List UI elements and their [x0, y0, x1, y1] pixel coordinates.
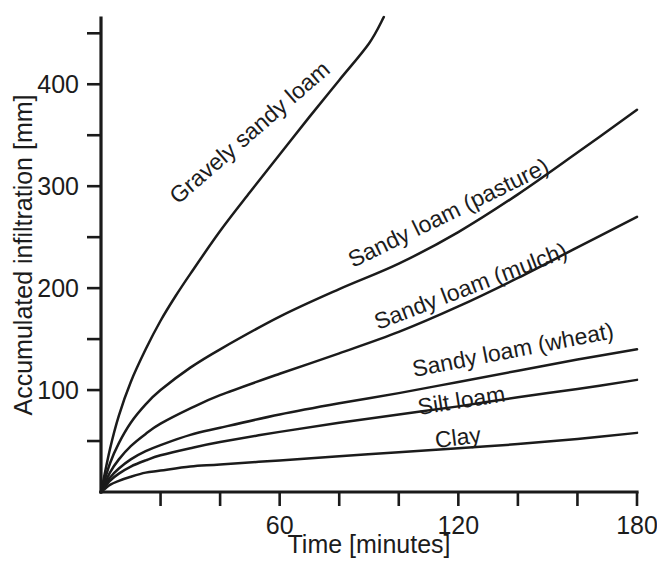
y-tick-label: 200 [37, 274, 79, 302]
x-axis-ticks [161, 492, 637, 506]
series-curve [101, 17, 384, 492]
y-tick-label: 300 [37, 172, 79, 200]
y-tick-label: 100 [37, 376, 79, 404]
y-axis-title: Accumulated infiltration [mm] [9, 95, 37, 416]
y-tick-label: 400 [37, 70, 79, 98]
y-axis-ticks [87, 33, 101, 441]
y-axis-tick-labels: 100200300400 [37, 70, 79, 404]
series-curve [101, 380, 637, 492]
series-curve [101, 433, 637, 492]
chart-plot-area: 100200300400 60120180 Gravely sandy loam… [0, 0, 657, 567]
series-label: Gravely sandy loam [164, 56, 334, 209]
x-axis-title: Time [minutes] [287, 530, 450, 558]
series-curve [101, 110, 637, 492]
x-tick-label: 180 [616, 511, 657, 539]
series-label: Sandy loam (mulch) [370, 237, 570, 335]
series-curve [101, 349, 637, 492]
infiltration-chart: 100200300400 60120180 Gravely sandy loam… [0, 0, 657, 567]
